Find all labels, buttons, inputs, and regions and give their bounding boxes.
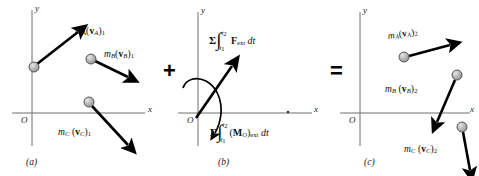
panel-c-label-B-m: m [385,84,392,94]
panel-a-vector-B [95,61,128,77]
panel-b-linear-impulse-term: Σ∫t2t1 Fext dt [209,28,255,50]
panel-b-linear-differential: dt [248,35,256,46]
panel-a-vector-C [92,106,128,145]
panel-a-label-B-m: m [104,49,111,59]
panel-b-linear-integrand-sub: ext [237,39,245,46]
panel-a-vector-A [37,32,78,64]
panel-c-label-C-m: m [404,144,411,154]
panel-c-origin-label: O [349,116,356,125]
panel-c-vector-B [437,80,455,122]
panel-a-label-B-state: 1 [131,52,134,59]
panel-c-label-C: mC (vC)2 [404,145,437,155]
panel-c-y-axis-label: y [363,6,367,15]
panel-c-vector-C [463,132,470,170]
panel-b-linear-impulse-vector [196,66,232,118]
panel-a-label-A-state: 1 [102,29,105,36]
panel-b-x-axis-label: x [314,105,318,114]
panel-c-label-B-state: 2 [414,87,417,94]
panel-a-label-C-state: 1 [88,130,91,137]
panel-c-vector-A [409,45,450,56]
panel-b-angular-differential: dt [261,127,269,138]
panel-c-particle-C [457,122,467,132]
panel-b-angular-impulse-term: Σ∫t2t1(MO)ext dt [210,120,269,142]
panel-a-label-A-m: m [75,26,82,36]
panel-a-particle-A [29,62,39,72]
impulse-momentum-figure: + = y x O (a) mA(vA)1 mB(vB)1 mC (vC)1 y… [0,0,479,176]
panel-b-linear-limits: t2t1 [221,33,228,50]
equals-operator: = [330,60,343,82]
panel-a-label-C-m: m [58,127,65,137]
panel-a-particle-C [84,97,94,107]
panel-a-label-C: mC (vC)1 [58,128,91,138]
panel-a-origin-label: O [21,116,28,125]
panel-c-particle-B [452,70,462,80]
panel-c-label-B-m-sub: B [392,87,396,94]
panel-a-y-axis-label: y [35,4,39,13]
panel-b-linear-upper-limit: t2 [221,30,226,38]
panel-c-label-C-m-sub: C [411,147,416,154]
panel-c-label-C-state: 2 [434,147,437,154]
panel-b-linear-lower-limit: t1 [219,45,224,53]
panel-a-label-A: mA(vA)1 [75,27,105,37]
panel-a-label-B: mB(vB)1 [104,50,134,60]
plus-operator: + [163,60,176,82]
panel-b-caption: (b) [218,158,229,168]
panel-c-caption: (c) [364,158,375,168]
panel-a-x-axis-label: x [148,105,152,114]
panel-a-caption: (a) [26,158,37,168]
panel-b-angular-limits: t2t1 [222,125,229,142]
panel-b-axis-tick [287,111,290,114]
panel-a-particle-B [86,54,96,64]
panel-b-angular-integrand-sub: ext [250,131,258,138]
panel-c-particle-A [399,52,409,62]
panel-b-origin-label: O [187,116,194,125]
panel-b-angular-lower-limit: t1 [220,137,225,145]
panel-b-angular-upper-limit: t2 [222,122,227,130]
panel-c-x-axis-label: x [470,105,474,114]
panel-a-label-C-m-sub: C [65,130,70,137]
panel-c-label-B: mB (vB)2 [385,85,418,95]
panel-b-angular-integrand: M [233,127,242,138]
panel-b-y-axis-label: y [201,6,205,15]
